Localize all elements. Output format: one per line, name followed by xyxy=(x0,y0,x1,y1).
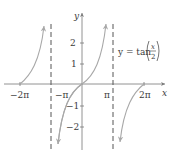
tick-label-2pi: 2π xyxy=(139,90,151,100)
tick-label-y1: 1 xyxy=(71,59,77,69)
svg-text:x: x xyxy=(151,43,155,51)
tick-label-neg-pi: −π xyxy=(55,90,69,100)
curve-left-branch xyxy=(20,26,44,84)
svg-text:2: 2 xyxy=(151,53,155,61)
tick-label-yneg1: −1 xyxy=(66,101,79,111)
tangent-graph: y x −2π −π π 2π 2 1 −1 −2 y = tan x 2 xyxy=(0,0,169,156)
equation-label: y = tan x 2 xyxy=(117,41,159,61)
tick-label-pi: π xyxy=(104,90,110,100)
svg-text:y = tan: y = tan xyxy=(117,47,151,57)
x-axis-label: x xyxy=(162,88,167,98)
y-axis-label: y xyxy=(73,11,80,21)
tick-label-y2: 2 xyxy=(70,38,76,48)
tick-label-neg-2pi: −2π xyxy=(10,90,29,100)
tick-label-yneg2: −2 xyxy=(66,122,79,132)
